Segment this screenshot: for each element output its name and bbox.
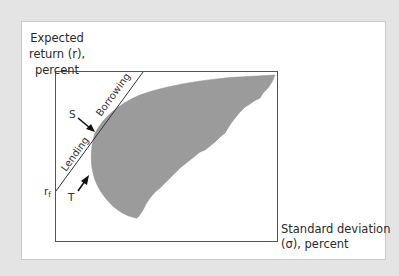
figure-background: Borrowing Lending S T rf Expected return…: [0, 0, 399, 276]
y-axis-label-line1: Expected: [24, 30, 90, 46]
x-axis-label-line1: Standard deviation: [281, 222, 390, 237]
x-axis-label: Standard deviation (σ), percent: [281, 222, 390, 252]
feasible-set-region: [91, 75, 275, 218]
point-t-label: T: [67, 191, 75, 203]
t-arrow-head-icon: [81, 175, 89, 185]
risk-free-label: rf: [44, 185, 51, 199]
lending-label: Lending: [59, 135, 91, 174]
s-arrow-shaft: [78, 118, 90, 128]
y-axis-label-line3: percent: [24, 62, 90, 78]
point-s-label: S: [69, 108, 76, 120]
risk-free-subscript: f: [48, 190, 51, 199]
y-axis-label: Expected return (r), percent: [24, 30, 90, 78]
x-axis-label-line2: (σ), percent: [281, 237, 390, 252]
y-axis-label-line2: return (r),: [24, 46, 90, 62]
